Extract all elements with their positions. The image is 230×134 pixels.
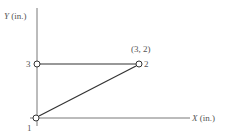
node-1-label: 1 bbox=[27, 123, 32, 133]
truss-diagram: Y (in.) X (in.) 3 2 1 (3, 2) bbox=[0, 0, 230, 134]
x-axis-label: X (in.) bbox=[191, 113, 215, 123]
node-1 bbox=[33, 115, 39, 121]
y-axis-label: Y (in.) bbox=[4, 11, 27, 21]
member-1-2 bbox=[39, 66, 136, 116]
node-2-coord-label: (3, 2) bbox=[131, 44, 151, 54]
node-2-label: 2 bbox=[144, 59, 149, 69]
node-3 bbox=[34, 61, 40, 67]
node-3-label: 3 bbox=[26, 59, 31, 69]
node-2 bbox=[136, 61, 142, 67]
